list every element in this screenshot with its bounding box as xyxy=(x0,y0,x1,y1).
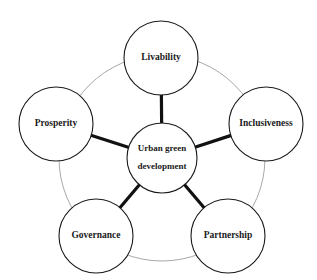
node-partnership[interactable]: Partnership xyxy=(191,199,265,273)
node-label-prosperity: Prosperity xyxy=(35,118,78,128)
concept-diagram: Livability Inclusiveness Partnership Gov… xyxy=(0,0,317,280)
node-label-inclusiveness: Inclusiveness xyxy=(239,118,293,128)
node-governance[interactable]: Governance xyxy=(59,199,133,273)
spoke-center-partnership xyxy=(183,183,205,209)
node-label-urban-green-line2: development xyxy=(138,161,187,171)
node-prosperity[interactable]: Prosperity xyxy=(19,87,93,161)
spoke-center-prosperity xyxy=(89,135,130,148)
node-circle-urban-green-development xyxy=(127,123,197,193)
diagram-canvas: Livability Inclusiveness Partnership Gov… xyxy=(0,0,317,280)
node-label-livability: Livability xyxy=(141,52,181,62)
node-label-urban-green-line1: Urban green xyxy=(138,143,187,153)
spoke-center-inclusiveness xyxy=(193,135,232,148)
node-label-governance: Governance xyxy=(71,230,120,240)
node-urban-green-development[interactable]: Urban green development xyxy=(127,123,197,193)
node-livability[interactable]: Livability xyxy=(124,21,198,95)
spoke-center-governance xyxy=(119,183,141,209)
node-inclusiveness[interactable]: Inclusiveness xyxy=(229,87,303,161)
node-label-partnership: Partnership xyxy=(204,230,253,240)
